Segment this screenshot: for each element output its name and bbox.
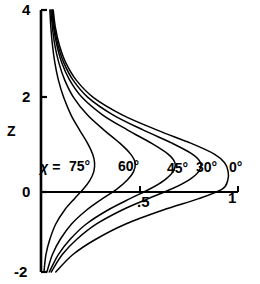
y-axis-title: Z	[7, 124, 16, 138]
curve-label-75: 75°	[69, 159, 90, 173]
chart-figure: 4 2 0 -2 .5 1 Z χ = 75° 60° 45° 30° 0°	[0, 0, 260, 284]
x-tick-label-half: .5	[137, 194, 150, 209]
y-tick-label-4: 4	[22, 2, 30, 17]
y-tick-label-0: 0	[22, 184, 30, 199]
chart-plot-area	[0, 0, 260, 284]
curve-label-45: 45°	[167, 161, 188, 175]
curve-label-60: 60°	[118, 159, 139, 173]
curve-75deg	[44, 10, 95, 272]
curve-0deg	[53, 10, 228, 272]
curve-label-0: 0°	[229, 160, 242, 174]
curve-30deg	[51, 10, 201, 272]
curve-group	[44, 10, 229, 272]
curve-label-30: 30°	[196, 160, 217, 174]
chi-parameter-label: χ =	[40, 160, 60, 174]
y-tick-label-minus-2: -2	[14, 264, 27, 279]
y-tick-label-2: 2	[22, 89, 30, 104]
curve-45deg	[49, 10, 175, 272]
x-tick-label-one: 1	[228, 190, 236, 205]
